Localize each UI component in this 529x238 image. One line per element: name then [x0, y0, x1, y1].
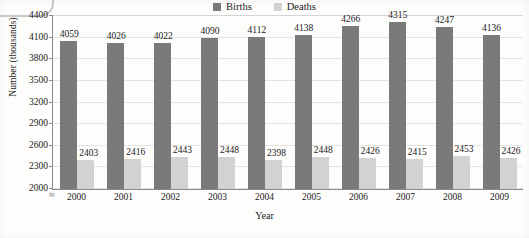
y-axis-tick-mark	[49, 37, 53, 38]
bar-births: 4266	[342, 26, 359, 189]
x-axis-ticks: 2000200120022003200420052006200720082009	[53, 192, 523, 202]
legend-swatch-births	[213, 3, 221, 11]
bar-value-label: 4059	[60, 29, 79, 39]
bar-births: 4022	[154, 43, 171, 189]
bar-group: 42472453	[429, 16, 476, 189]
chart-page: Births Deaths Number (thousands) 2000230…	[0, 0, 529, 238]
bar-value-label: 2453	[455, 144, 474, 154]
bar-value-label: 4138	[294, 23, 313, 33]
bar-births: 4136	[483, 35, 500, 189]
bar-deaths: 2448	[218, 157, 235, 189]
legend-swatch-deaths	[274, 3, 282, 11]
bar-group: 41362426	[476, 16, 523, 189]
bar-group: 41382448	[289, 16, 336, 189]
bar-value-label: 2403	[79, 148, 98, 158]
bar-deaths: 2448	[312, 157, 329, 189]
y-axis-tick-mark	[49, 123, 53, 124]
bar-value-label: 4266	[341, 14, 360, 24]
x-axis-tick-label: 2006	[335, 192, 382, 202]
y-axis-tick-mark	[49, 102, 53, 103]
bar-value-label: 2443	[173, 145, 192, 155]
bar-group: 40902448	[195, 16, 242, 189]
bar-value-label: 4022	[154, 31, 173, 41]
bar-value-label: 2398	[267, 148, 286, 158]
bar-value-label: 4090	[201, 26, 220, 36]
bar-deaths: 2415	[406, 159, 423, 189]
bar-deaths: 2398	[265, 160, 282, 189]
bar-value-label: 2448	[220, 145, 239, 155]
chart-legend: Births Deaths	[0, 1, 529, 12]
x-axis-tick-label: 2007	[382, 192, 429, 202]
x-axis-tick-label: 2000	[53, 192, 100, 202]
bar-group: 42662426	[335, 16, 382, 189]
bar-value-label: 4112	[248, 25, 267, 35]
plot-wrapper: 200023002600290032003500380041004400 405…	[52, 16, 523, 190]
bar-value-label: 2448	[314, 145, 333, 155]
bar-births: 4112	[248, 37, 265, 189]
y-axis-tick-mark	[49, 58, 53, 59]
bar-deaths: 2453	[453, 156, 470, 189]
y-axis-tick-mark	[49, 80, 53, 81]
legend-label-deaths: Deaths	[287, 1, 316, 12]
bar-groups: 4059240340262416402224434090244841122398…	[54, 16, 523, 189]
bar-value-label: 2426	[361, 146, 380, 156]
bar-group: 40222443	[148, 16, 195, 189]
bar-value-label: 4315	[388, 10, 407, 20]
legend-entry-births: Births	[213, 1, 252, 12]
bar-deaths: 2443	[171, 157, 188, 189]
x-axis-title: Year	[0, 210, 529, 221]
x-axis-tick-label: 2001	[100, 192, 147, 202]
legend-label-births: Births	[226, 1, 252, 12]
bar-births: 4138	[295, 35, 312, 189]
x-axis-tick-label: 2005	[288, 192, 335, 202]
x-axis-tick-label: 2008	[429, 192, 476, 202]
bar-deaths: 2426	[359, 158, 376, 189]
bar-births: 4247	[436, 27, 453, 189]
bar-births: 4059	[60, 41, 77, 189]
bar-group: 40262416	[101, 16, 148, 189]
y-axis-title: Number (thousands)	[8, 0, 18, 122]
y-axis-tick-mark	[49, 166, 53, 167]
bar-births: 4026	[107, 43, 124, 189]
bar-value-label: 2426	[501, 146, 520, 156]
bar-deaths: 2403	[77, 160, 94, 189]
bar-group: 41122398	[242, 16, 289, 189]
bar-value-label: 4136	[482, 23, 501, 33]
x-axis-tick-label: 2009	[476, 192, 523, 202]
bar-group: 43152415	[382, 16, 429, 189]
y-axis-tick-mark	[49, 145, 53, 146]
plot-area: 200023002600290032003500380041004400 405…	[52, 16, 523, 190]
legend-entry-deaths: Deaths	[274, 1, 316, 12]
bar-deaths: 2416	[124, 159, 141, 189]
bar-value-label: 4247	[435, 15, 454, 25]
x-axis-tick-label: 2002	[147, 192, 194, 202]
bar-value-label: 2416	[126, 147, 145, 157]
bar-group: 40592403	[54, 16, 101, 189]
bar-births: 4090	[201, 38, 218, 189]
x-axis-tick-label: 2004	[241, 192, 288, 202]
bar-births: 4315	[389, 22, 406, 189]
bar-value-label: 2415	[408, 147, 427, 157]
bar-deaths: 2426	[500, 158, 517, 189]
y-axis-tick-mark	[49, 15, 53, 16]
bar-value-label: 4026	[107, 31, 126, 41]
x-axis-tick-label: 2003	[194, 192, 241, 202]
